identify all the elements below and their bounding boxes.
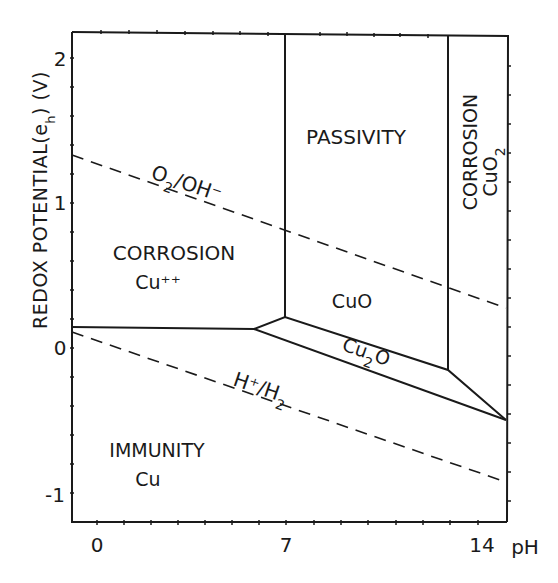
- cu2o-cu-boundary: [254, 329, 506, 420]
- region-corrosion-cuo2-species: CuO2: [479, 147, 508, 196]
- y-tick-label-0: 0: [54, 336, 67, 360]
- region-immunity-species: Cu: [135, 468, 160, 490]
- h-h2-line-label: H⁺/H2: [228, 367, 291, 414]
- x-tick-label-0: 0: [91, 533, 104, 557]
- x-tick-label-14: 14: [469, 533, 494, 557]
- region-immunity-label: IMMUNITY: [109, 439, 205, 461]
- y-tick-label-2: 2: [54, 47, 67, 71]
- region-passivity-label: PASSIVITY: [306, 125, 407, 149]
- cuo-cu2o-boundary: [254, 317, 506, 420]
- region-cu2o-label: Cu2O: [337, 333, 393, 376]
- o2-oh-line-label: O2/OH⁻: [146, 160, 225, 212]
- phase-boundaries: [72, 34, 506, 420]
- y-tick-label-minus1: -1: [45, 483, 65, 507]
- cu-cupp-boundary: [72, 327, 254, 329]
- y-tick-label-1: 1: [54, 191, 67, 215]
- region-cuo-label: CuO: [332, 290, 372, 312]
- region-corrosion-cuo2-label: CORROSION: [459, 94, 481, 210]
- region-corrosion-cupp-label: CORROSION: [113, 241, 236, 265]
- pourbaix-diagram: 2 1 0 -1 0 7 14 pH REDOX POTENTIAL(eh) (…: [0, 0, 558, 583]
- region-corrosion-cupp-species: Cu⁺⁺: [135, 271, 180, 293]
- x-axis-label: pH: [511, 535, 539, 559]
- x-tick-label-7: 7: [280, 533, 293, 557]
